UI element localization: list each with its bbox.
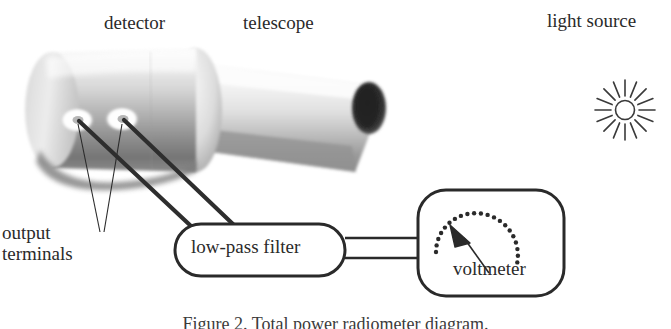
- label-low-pass-filter: low-pass filter: [191, 236, 300, 257]
- filter-to-voltmeter-cable: [345, 238, 421, 258]
- radiometer-diagram: detector telescope light source output t…: [0, 0, 671, 329]
- diagram-wiring: [0, 0, 671, 329]
- label-voltmeter: voltmeter: [453, 258, 526, 279]
- label-detector: detector: [104, 12, 165, 33]
- label-telescope: telescope: [243, 12, 314, 33]
- label-output-terminals: output terminals: [2, 222, 73, 265]
- figure-caption: Figure 2. Total power radiometer diagram…: [0, 314, 671, 329]
- label-output-terminals-line2: terminals: [2, 243, 73, 264]
- label-output-terminals-line1: output: [2, 222, 73, 243]
- label-light-source: light source: [547, 10, 636, 31]
- voltmeter-box: [418, 190, 564, 296]
- detector-signal-cables: [79, 120, 236, 227]
